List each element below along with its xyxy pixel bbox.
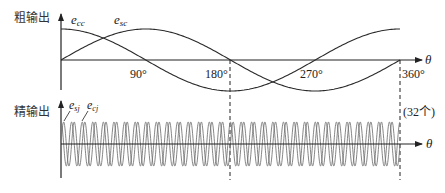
coarse-output-label: 粗输出 <box>14 10 50 25</box>
fine-output-panel: 精输出 esj ecj (32个) θ <box>14 98 435 178</box>
tick-90: 90° <box>130 67 147 81</box>
coarse-theta-label: θ <box>425 52 432 67</box>
esc-label: esc <box>114 12 127 28</box>
esj-leader-line <box>64 111 70 121</box>
fine-theta-label: θ <box>426 136 433 151</box>
resolver-output-diagram: 粗输出 ecc esc 90° 180° 270° 360° θ 精输出 esj… <box>0 0 445 193</box>
tick-270: 270° <box>300 67 323 81</box>
fine-output-label: 精输出 <box>14 104 50 119</box>
tick-180: 180° <box>205 67 228 81</box>
tick-360: 360° <box>402 67 425 81</box>
ecc-label: ecc <box>71 12 85 28</box>
cycles-note: (32个) <box>403 105 435 119</box>
ecj-label: ecj <box>87 98 99 113</box>
coarse-output-panel: 粗输出 ecc esc 90° 180° 270° 360° θ <box>14 10 432 91</box>
esj-label: esj <box>69 98 80 113</box>
ecj-leader-line <box>82 111 88 121</box>
